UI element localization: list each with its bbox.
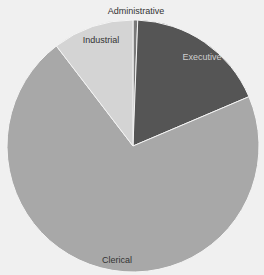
- pie-chart: [0, 0, 264, 275]
- slice-label-executive: Executive: [182, 52, 221, 62]
- slice-label-industrial: Industrial: [83, 35, 120, 45]
- slice-label-administrative: Administrative: [108, 6, 165, 16]
- slice-label-clerical: Clerical: [102, 255, 132, 265]
